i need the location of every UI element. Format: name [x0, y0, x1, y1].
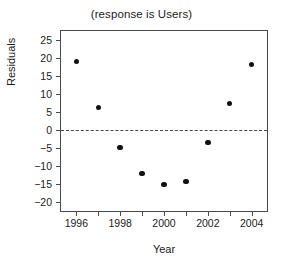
y-axis-tick	[56, 130, 61, 131]
data-point	[96, 105, 101, 110]
data-point	[74, 59, 79, 64]
y-axis-tick-label: 0	[0, 125, 52, 135]
x-axis-title: Year	[60, 243, 268, 255]
x-axis-tick	[98, 211, 99, 216]
zero-reference-line	[61, 130, 267, 131]
data-point	[161, 182, 166, 187]
data-point	[139, 171, 144, 176]
y-axis-tick-label: 5	[0, 107, 52, 117]
y-axis-tick	[56, 40, 61, 41]
x-axis-tick	[252, 211, 253, 216]
plot-area: 2520151050−5−10−15−201996199820002002200…	[61, 31, 267, 211]
x-axis-tick	[120, 211, 121, 216]
y-axis-tick	[56, 76, 61, 77]
x-axis-tick	[186, 211, 187, 216]
x-axis-tick-label: 2000	[141, 218, 187, 229]
y-axis-tick-label: −20	[0, 197, 52, 207]
residuals-versus-year-chart: (response is Users) Residuals 2520151050…	[0, 0, 283, 267]
y-axis-tick	[56, 94, 61, 95]
x-axis-tick-label: 2002	[185, 218, 231, 229]
x-axis-tick-label: 1996	[53, 218, 99, 229]
y-axis-tick	[56, 112, 61, 113]
plot-frame: 2520151050−5−10−15−201996199820002002200…	[60, 30, 268, 212]
data-point	[183, 179, 188, 184]
x-axis-tick-label: 1998	[97, 218, 143, 229]
x-axis-tick-label: 2004	[229, 218, 275, 229]
y-axis-tick-label: −5	[0, 143, 52, 153]
x-axis-tick	[76, 211, 77, 216]
x-axis-tick	[230, 211, 231, 216]
y-axis-tick-label: 25	[0, 35, 52, 45]
y-axis-tick-label: 15	[0, 71, 52, 81]
y-axis-tick	[56, 184, 61, 185]
x-axis-tick	[142, 211, 143, 216]
chart-title: (response is Users)	[0, 8, 283, 20]
y-axis-tick	[56, 148, 61, 149]
y-axis-tick-label: 10	[0, 89, 52, 99]
data-point	[227, 101, 232, 106]
y-axis-tick	[56, 166, 61, 167]
y-axis-tick-label: −10	[0, 161, 52, 171]
data-point	[205, 140, 210, 145]
data-point	[249, 62, 254, 67]
y-axis-tick	[56, 202, 61, 203]
y-axis-tick-label: 20	[0, 53, 52, 63]
data-point	[117, 145, 122, 150]
y-axis-tick	[56, 58, 61, 59]
y-axis-tick-label: −15	[0, 179, 52, 189]
x-axis-tick	[164, 211, 165, 216]
x-axis-tick	[208, 211, 209, 216]
